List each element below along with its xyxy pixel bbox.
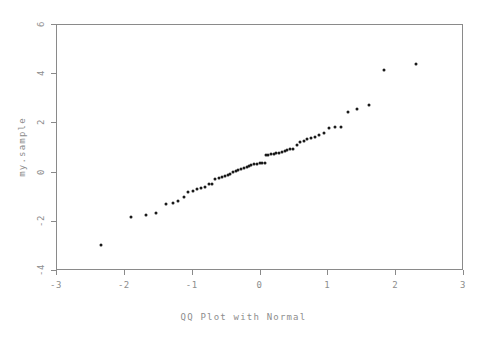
x-axis-tick-mark xyxy=(192,270,193,275)
data-point xyxy=(144,213,147,216)
data-point xyxy=(187,191,190,194)
y-axis-tick-label: 6 xyxy=(36,21,46,27)
x-axis-tick-label: -2 xyxy=(118,280,130,290)
data-point xyxy=(322,131,325,134)
y-axis-tick-label: -2 xyxy=(36,215,46,227)
data-point xyxy=(310,136,313,139)
data-point xyxy=(130,216,133,219)
data-point xyxy=(177,199,180,202)
y-axis-tick-label: 4 xyxy=(36,70,46,76)
x-axis-tick-mark xyxy=(56,270,57,275)
data-point xyxy=(196,188,199,191)
y-axis-tick-mark xyxy=(51,122,56,123)
data-point xyxy=(339,126,342,129)
x-axis-tick-label: -3 xyxy=(50,280,62,290)
y-axis-tick-mark xyxy=(51,24,56,25)
data-point xyxy=(383,69,386,72)
y-axis-title: my.sample xyxy=(17,117,27,177)
data-point xyxy=(204,186,207,189)
plot-data-area xyxy=(56,24,463,270)
x-axis-tick-mark xyxy=(124,270,125,275)
x-axis-tick-label: 3 xyxy=(460,280,466,290)
data-point xyxy=(100,244,103,247)
y-axis-tick-label: -4 xyxy=(36,264,46,276)
data-point xyxy=(347,110,350,113)
x-axis-tick-mark xyxy=(395,270,396,275)
x-axis-tick-mark xyxy=(463,270,464,275)
data-point xyxy=(263,161,266,164)
data-point xyxy=(318,133,321,136)
data-point xyxy=(314,135,317,138)
x-axis-tick-label: -1 xyxy=(186,280,198,290)
data-point xyxy=(292,147,295,150)
data-point xyxy=(154,212,157,215)
x-axis-tick-label: 2 xyxy=(392,280,398,290)
data-point xyxy=(328,126,331,129)
data-point xyxy=(200,187,203,190)
data-point xyxy=(164,203,167,206)
y-axis-tick-mark xyxy=(51,73,56,74)
data-point xyxy=(295,143,298,146)
data-point xyxy=(333,126,336,129)
data-point xyxy=(305,138,308,141)
data-point xyxy=(211,182,214,185)
x-axis-tick-mark xyxy=(260,270,261,275)
qq-plot-figure: QQ Plot with Normal my.sample -3-2-10123… xyxy=(0,0,487,343)
y-axis-tick-label: 0 xyxy=(36,169,46,175)
x-axis-tick-label: 1 xyxy=(324,280,330,290)
x-axis-tick-label: 0 xyxy=(257,280,263,290)
data-point xyxy=(356,107,359,110)
y-axis-tick-label: 2 xyxy=(36,119,46,125)
data-point xyxy=(171,202,174,205)
y-axis-tick-mark xyxy=(51,270,56,271)
data-point xyxy=(192,189,195,192)
x-axis-tick-mark xyxy=(327,270,328,275)
x-axis-title: QQ Plot with Normal xyxy=(0,312,487,322)
data-point xyxy=(182,195,185,198)
y-axis-tick-mark xyxy=(51,172,56,173)
data-point xyxy=(367,104,370,107)
data-point xyxy=(414,63,417,66)
y-axis-tick-mark xyxy=(51,221,56,222)
